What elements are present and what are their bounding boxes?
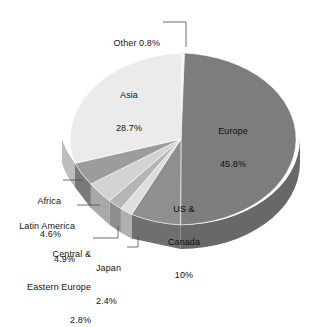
slice-label-us-canada: US & Canada 10% [156,182,212,303]
slice-label-asia: Asia 28.7% [100,68,158,156]
slice-label-us-canada-line2: Canada [156,237,212,248]
slice-label-europe: Europe 45.8% [203,104,263,192]
slice-label-us-canada-value: 10% [156,270,212,281]
callout-label-central-eastern-europe: Central & Eastern Europe 2.8% [0,227,91,327]
callout-japan-value: 2.4% [96,296,136,307]
slice-label-europe-value: 45.8% [203,159,263,170]
slice-label-europe-name: Europe [203,126,263,137]
slice-label-asia-name: Asia [100,90,158,101]
slice-label-us-canada-line1: US & [156,204,212,215]
callout-japan-name: Japan [96,263,136,274]
callout-cee-line1: Central & [0,249,91,260]
callout-label-other: Other 0.8% [78,16,160,71]
callout-cee-line2: Eastern Europe [0,282,91,293]
leader-line-other [163,22,186,47]
callout-cee-value: 2.8% [0,315,91,326]
slice-label-asia-value: 28.7% [100,123,158,134]
callout-label-japan: Japan 2.4% [96,241,136,327]
callout-other-line1: Other 0.8% [78,38,160,49]
